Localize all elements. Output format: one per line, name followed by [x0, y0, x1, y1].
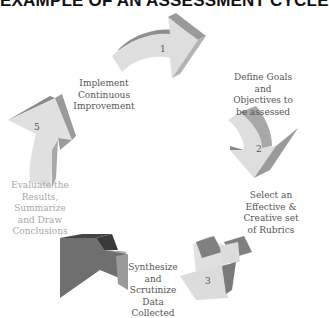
label-implement: Implement Continuous Improvement — [56, 78, 152, 113]
arrow-step-1: 1 — [112, 13, 206, 78]
arrow-step-4 — [60, 234, 128, 298]
label-define: Define Goals and Objectives to be assess… — [220, 72, 306, 118]
arrow-3-number: 3 — [205, 276, 211, 286]
arrow-5-number: 5 — [34, 122, 40, 132]
label-evaluate: Evaluate the Results, Summarize and Draw… — [2, 180, 78, 238]
arrow-2-number: 2 — [256, 144, 262, 154]
arrow-1-number: 1 — [160, 44, 166, 54]
arrow-step-3: 3 — [180, 236, 252, 300]
label-synthesize: Synthesize and Scrutinize Data Collected — [120, 262, 186, 318]
label-select: Select an Effective & Creative set of Ru… — [232, 190, 310, 236]
